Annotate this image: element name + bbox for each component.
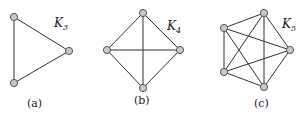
- caption-a: (a): [27, 97, 42, 110]
- vertex-b-2: [176, 46, 183, 53]
- edge-a-1-2: [14, 51, 69, 83]
- edge-c-0-3: [224, 13, 264, 72]
- vertex-a-2: [10, 79, 17, 86]
- vertex-c-2: [286, 46, 293, 53]
- vertex-b-3: [139, 84, 146, 91]
- vertex-b-0: [139, 9, 146, 16]
- edge-b-1-3: [107, 50, 143, 88]
- vertex-a-0: [10, 13, 17, 20]
- vertex-a-1: [65, 47, 72, 54]
- graph-label-k3: K3: [53, 16, 68, 32]
- graph-label-k5: K5: [281, 17, 296, 33]
- vertex-c-4: [260, 83, 267, 90]
- edge-b-0-1: [107, 13, 143, 50]
- caption-c: (c): [254, 97, 269, 110]
- edge-c-3-4: [224, 72, 264, 87]
- vertex-b-1: [103, 46, 110, 53]
- edge-c-0-1: [224, 13, 264, 28]
- edge-c-1-2: [224, 28, 290, 50]
- vertex-c-1: [220, 24, 227, 31]
- edge-c-1-4: [224, 28, 264, 87]
- complete-graphs-figure: K3 (a) K4 (b) K5 (c): [0, 0, 304, 121]
- graph-label-k4: K4: [166, 19, 181, 35]
- edge-c-2-4: [264, 50, 290, 87]
- vertex-c-3: [220, 68, 227, 75]
- caption-b: (b): [134, 94, 150, 107]
- vertex-c-0: [260, 9, 267, 16]
- edge-c-2-3: [224, 50, 290, 72]
- edge-b-2-3: [143, 50, 180, 88]
